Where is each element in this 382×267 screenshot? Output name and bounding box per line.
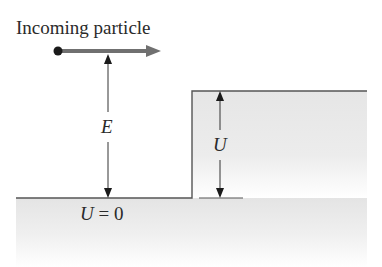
- energy-arrowhead-up-icon: [104, 54, 112, 64]
- barrier-height-label: U: [213, 134, 227, 156]
- ground-potential-eq: = 0: [94, 203, 124, 224]
- particle-dot-icon: [54, 47, 63, 56]
- ground-region: [16, 198, 367, 267]
- particle-arrowhead-icon: [146, 45, 161, 57]
- ground-potential-label: U = 0: [80, 203, 123, 225]
- diagram-graphics: [0, 0, 382, 267]
- diagram-title: Incoming particle: [16, 17, 151, 39]
- potential-step-diagram: Incoming particle E U U = 0: [0, 0, 382, 267]
- energy-label: E: [101, 116, 113, 138]
- ground-potential-var: U: [80, 203, 94, 224]
- energy-arrowhead-down-icon: [104, 188, 112, 198]
